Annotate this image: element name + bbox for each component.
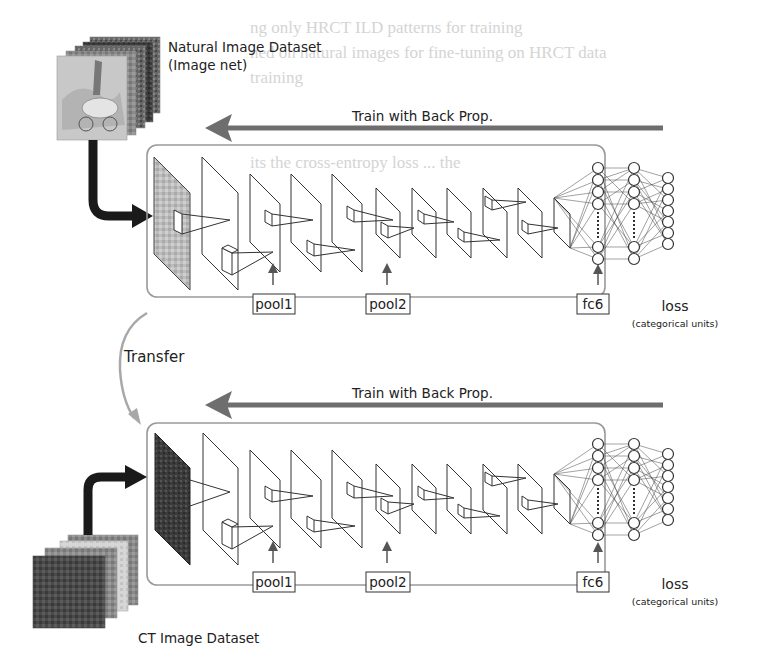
bottom-fully-connected-layers	[554, 444, 668, 535]
top-loss-sublabel: (categorical units)	[632, 318, 718, 329]
backprop-label-top: Train with Back Prop.	[351, 108, 493, 124]
bottom-loss-sublabel: (categorical units)	[632, 596, 718, 607]
bottom-conv-layers	[155, 433, 570, 565]
top-pool2-label: pool2	[369, 296, 406, 312]
natural-image-stack	[57, 37, 160, 140]
top-fc6-label: fc6	[583, 296, 604, 312]
ct-image-stack	[33, 535, 138, 628]
bottom-pool1-label: pool1	[255, 574, 292, 590]
input-arrow-bottom	[88, 465, 147, 535]
top-pool1-marker: pool1	[253, 263, 295, 314]
natural-dataset-sublabel: (Image net)	[168, 57, 247, 73]
top-loss-label: loss	[661, 298, 688, 314]
top-conv-layers	[154, 157, 570, 290]
top-pool2-marker: pool2	[366, 263, 410, 314]
top-pool1-label: pool1	[255, 296, 292, 312]
input-arrow-top	[93, 140, 153, 228]
natural-dataset-label: Natural Image Dataset	[168, 39, 322, 55]
bottom-loss-label: loss	[661, 576, 688, 592]
bottom-pool2-label: pool2	[369, 574, 406, 590]
bottom-fc6-label: fc6	[583, 574, 604, 590]
transfer-arrow	[120, 313, 147, 425]
bottom-pool2-marker: pool2	[366, 541, 410, 592]
ct-dataset-label: CT Image Dataset	[138, 630, 259, 646]
transfer-label: Transfer	[123, 348, 185, 366]
bottom-pool1-marker: pool1	[253, 541, 295, 592]
top-fully-connected-layers	[554, 168, 668, 259]
backprop-label-bottom: Train with Back Prop.	[351, 385, 493, 401]
transfer-learning-diagram: Natural Image Dataset (Image net) Train …	[0, 0, 762, 660]
